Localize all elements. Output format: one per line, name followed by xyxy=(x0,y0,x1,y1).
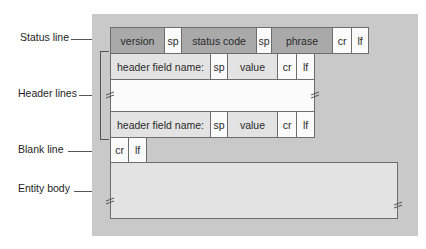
cr-field: cr xyxy=(277,111,297,138)
lf-field: lf xyxy=(128,137,147,163)
break-mark-icon xyxy=(311,91,319,99)
sp-field: sp xyxy=(210,111,228,138)
status-line-label: Status line xyxy=(20,31,69,43)
status-code-field: status code xyxy=(181,27,257,54)
header-lines-label: Header lines xyxy=(18,87,77,99)
lf-field: lf xyxy=(351,27,369,54)
blank-line-label: Blank line xyxy=(18,143,64,155)
sp-field: sp xyxy=(210,53,228,80)
break-mark-icon xyxy=(394,201,402,209)
lf-field: lf xyxy=(296,53,315,80)
sp-field: sp xyxy=(256,27,272,54)
break-mark-icon xyxy=(106,91,114,99)
cr-field: cr xyxy=(277,53,297,80)
entity-body-label: Entity body xyxy=(18,182,70,194)
phrase-field: phrase xyxy=(271,27,333,54)
version-field: version xyxy=(110,27,165,54)
header-field-name: header field name: xyxy=(110,111,211,138)
lf-field: lf xyxy=(296,111,315,138)
cr-field: cr xyxy=(332,27,352,54)
break-mark-icon xyxy=(106,197,114,205)
value-field: value xyxy=(227,53,278,80)
value-field: value xyxy=(227,111,278,138)
sp-field: sp xyxy=(164,27,182,54)
entity-body-box xyxy=(110,162,398,219)
cr-field: cr xyxy=(110,137,129,163)
elided-header-lines xyxy=(110,79,315,112)
header-field-name: header field name: xyxy=(110,53,211,80)
